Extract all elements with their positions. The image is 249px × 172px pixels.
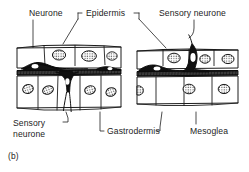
label-gastrodermis: Gastrodermis <box>107 126 160 136</box>
label-sensory-neurone-bottom: Sensory neurone <box>13 118 69 139</box>
label-neurone-top: Neurone <box>29 8 63 18</box>
left-panel-diagram <box>17 45 121 112</box>
leader-epidermis-right <box>139 19 166 48</box>
leader-sensory-top <box>189 20 194 38</box>
label-mesoglea: Mesoglea <box>190 126 228 136</box>
figure-nerve-net-diagram: Neurone Epidermis Sensory neurone Sensor… <box>0 0 249 172</box>
diagram-canvas <box>0 0 249 172</box>
panel-caption: (b) <box>8 151 19 161</box>
leader-epidermis-left <box>63 19 78 44</box>
label-epidermis: Epidermis <box>86 8 125 18</box>
label-sensory-neurone-top: Sensory neurone <box>159 8 226 18</box>
leader-gastrodermis-left <box>100 112 104 131</box>
right-panel-diagram <box>137 35 238 106</box>
